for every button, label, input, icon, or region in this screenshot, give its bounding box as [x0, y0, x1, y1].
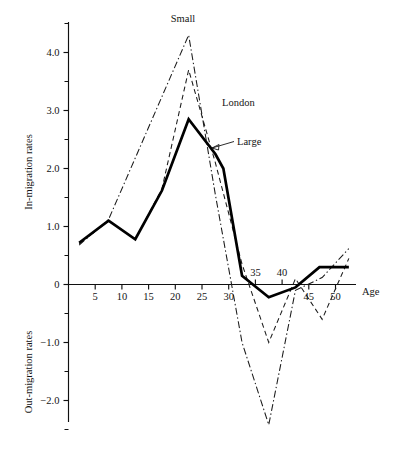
x-tick-label: 40: [277, 267, 288, 278]
y-tick-label: −1.0: [40, 337, 59, 348]
migration-rates-figure: 4.03.02.01.00−1.0−2.0 510152025303540455…: [0, 0, 398, 472]
x-tick-label: 45: [304, 291, 315, 302]
x-tick-label: 30: [223, 291, 234, 302]
x-tick-label: 10: [117, 291, 128, 302]
series-line-large: [79, 119, 349, 297]
series-group: [79, 35, 349, 425]
y-tick-label: 2.0: [46, 163, 59, 174]
y-tick-label: 4.0: [46, 47, 59, 58]
y-axis-title-lower: Out-migration rates: [23, 331, 34, 414]
x-tick-label: 5: [93, 291, 98, 302]
x-tick-label: 15: [143, 291, 154, 302]
y-axis-ticks: [64, 24, 69, 430]
series-label-small: Small: [171, 13, 196, 24]
axis-titles-group: Age In-migration rates Out-migration rat…: [23, 134, 380, 413]
x-axis-title: Age: [362, 286, 380, 297]
y-tick-label: 3.0: [46, 105, 59, 116]
y-axis-title-upper: In-migration rates: [23, 134, 34, 210]
large-leader-line: [212, 142, 234, 149]
y-tick-label: 0: [54, 279, 59, 290]
series-label-large: Large: [237, 136, 262, 147]
x-tick-label: 20: [170, 291, 181, 302]
x-tick-label: 35: [250, 267, 261, 278]
x-tick-label: 25: [197, 291, 208, 302]
y-tick-label: 1.0: [46, 221, 59, 232]
line-chart-svg: 4.03.02.01.00−1.0−2.0 510152025303540455…: [0, 0, 398, 472]
y-tick-label: −2.0: [40, 395, 59, 406]
axes-group: 4.03.02.01.00−1.0−2.0 510152025303540455…: [40, 22, 356, 430]
y-axis-tick-labels: 4.03.02.01.00−1.0−2.0: [40, 47, 59, 406]
series-label-london: London: [222, 97, 255, 108]
series-line-london: [79, 70, 349, 343]
